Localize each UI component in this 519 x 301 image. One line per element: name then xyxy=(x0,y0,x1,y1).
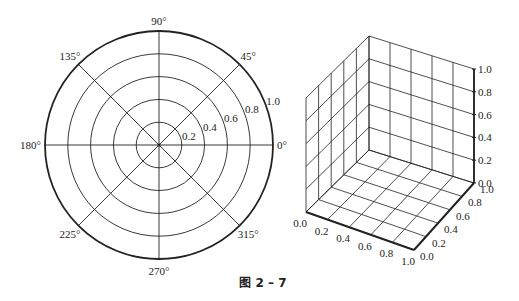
left-wall-grid-line xyxy=(306,150,369,212)
3d-axes-chart: 0.00.20.40.60.81.00.00.20.40.60.81.00.00… xyxy=(293,36,494,267)
radial-tick-label: 0.2 xyxy=(182,130,196,142)
figure-caption: 图 2 – 7 xyxy=(239,276,286,290)
y-tick-label: 0.6 xyxy=(456,210,470,222)
z-tick-label: 0.2 xyxy=(478,154,492,166)
floor-grid-line-y xyxy=(344,175,450,210)
y-tick-label: 0.4 xyxy=(444,223,458,235)
polar-spoke xyxy=(159,145,240,226)
z-tick-label: 0.4 xyxy=(478,131,492,143)
polar-center-dot xyxy=(158,144,161,147)
floor-grid-line-x xyxy=(328,157,390,220)
floor-grid-line-y xyxy=(319,200,426,237)
floor-grid-line-y xyxy=(356,162,462,196)
floor-grid-line-x xyxy=(371,170,432,235)
angle-tick-label: 270° xyxy=(149,265,170,277)
x-tick-label: 0.6 xyxy=(358,240,372,252)
left-wall-grid-line xyxy=(306,59,369,121)
floor-grid-line-x xyxy=(349,163,411,227)
left-wall-grid-line xyxy=(306,36,369,98)
z-tick-label: 1.0 xyxy=(478,63,492,75)
figure: 0°45°90°135°180°225°270°315°0.20.40.60.8… xyxy=(0,0,519,301)
x-tick-label: 0.8 xyxy=(380,247,394,259)
floor-grid-line-y xyxy=(331,187,438,223)
z-tick-label: 0.0 xyxy=(478,177,492,189)
angle-tick-label: 225° xyxy=(59,228,80,240)
x-tick-label: 0.0 xyxy=(293,217,307,229)
z-tick-label: 0.8 xyxy=(478,86,492,98)
y-tick-label: 0.8 xyxy=(468,196,482,208)
angle-tick-label: 45° xyxy=(240,50,255,62)
angle-tick-label: 180° xyxy=(20,139,41,151)
z-tick-label: 0.6 xyxy=(478,109,492,121)
radial-tick-label: 0.6 xyxy=(224,112,238,124)
radial-tick-label: 0.4 xyxy=(203,121,217,133)
angle-tick-label: 315° xyxy=(238,228,259,240)
left-wall-grid-line xyxy=(306,82,369,144)
polar-spoke xyxy=(78,64,159,145)
x-tick-label: 0.4 xyxy=(336,232,350,244)
radial-tick-label: 1.0 xyxy=(266,95,280,107)
angle-tick-label: 0° xyxy=(277,139,287,151)
angle-tick-label: 135° xyxy=(59,50,80,62)
polar-spoke xyxy=(78,145,159,226)
x-tick-label: 1.0 xyxy=(401,255,415,267)
polar-chart: 0°45°90°135°180°225°270°315°0.20.40.60.8… xyxy=(20,15,287,277)
x-tick-label: 0.2 xyxy=(315,225,329,237)
y-tick-label: 0.2 xyxy=(432,237,446,249)
radial-tick-label: 0.8 xyxy=(245,103,259,115)
polar-spoke xyxy=(159,64,240,145)
left-wall-grid-line xyxy=(306,104,369,166)
angle-tick-label: 90° xyxy=(151,15,166,27)
y-tick-label: 0.0 xyxy=(420,250,434,262)
